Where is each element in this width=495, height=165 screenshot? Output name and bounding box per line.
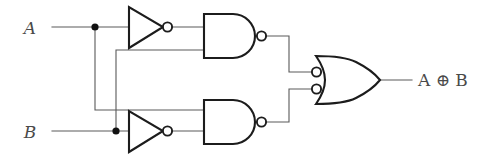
inverter-bottom-gate	[129, 111, 172, 152]
input-label-a: A	[22, 18, 36, 38]
wire-nand-top-to-or	[266, 36, 311, 72]
output-label-xor: A ⊕ B	[417, 70, 468, 90]
inverter-top-gate	[129, 7, 172, 48]
inverter-top-bubble-icon	[163, 22, 172, 31]
inverter-bottom-bubble-icon	[163, 126, 172, 135]
inverter-bottom-triangle	[129, 111, 163, 152]
nand-top-gate	[204, 14, 266, 58]
nand-top-body	[204, 14, 255, 58]
logic-circuit-diagram: A B A ⊕ B	[0, 0, 495, 165]
junction-dot-a	[91, 23, 98, 30]
nand-bottom-body	[204, 100, 255, 144]
nand-top-bubble-icon	[257, 31, 266, 40]
wire-a-branch-to-nand-bottom	[95, 27, 203, 110]
or-input-bottom-bubble-icon	[312, 84, 321, 93]
nand-bottom-gate	[204, 100, 266, 144]
or-output-body	[316, 56, 380, 104]
input-label-b: B	[23, 122, 37, 142]
wire-nand-bottom-to-or	[266, 89, 311, 122]
junction-dot-b	[112, 127, 119, 134]
nand-bottom-bubble-icon	[257, 117, 266, 126]
inverter-top-triangle	[129, 7, 163, 48]
or-input-top-bubble-icon	[312, 67, 321, 76]
or-output-gate	[312, 56, 380, 104]
